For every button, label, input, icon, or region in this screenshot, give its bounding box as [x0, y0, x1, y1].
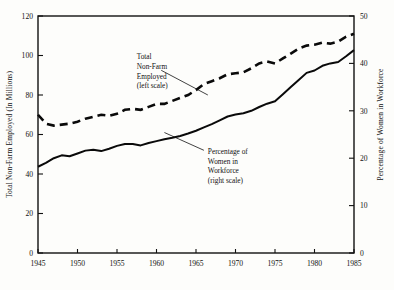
y-axis-right-ticks: 01020304050: [349, 12, 368, 258]
chart-figure: 194519501955196019651970197519801985 020…: [0, 0, 394, 290]
y2-tick-label: 40: [360, 59, 368, 68]
x-tick-label: 1950: [70, 259, 85, 268]
annotation-line: Workforce: [208, 166, 239, 175]
y-tick-label: 0: [29, 249, 33, 258]
annotation-leader-line: [161, 70, 208, 95]
y-tick-label: 80: [25, 91, 33, 100]
chart-annotations: TotalNon-FarmEmployed(left scale)Percent…: [137, 52, 249, 185]
y-axis-left-ticks: 020406080100120: [22, 12, 43, 258]
x-tick-label: 1975: [267, 259, 282, 268]
dual-axis-line-chart: 194519501955196019651970197519801985 020…: [0, 0, 394, 290]
y-axis-left-title: Total Non-Farm Employed (In Millions): [5, 71, 14, 199]
series-percentage-women-workforce: [38, 50, 354, 167]
y-axis-right-title: Percentage of Women in Workforce: [376, 68, 385, 181]
annotation-line: (left scale): [137, 81, 169, 90]
x-tick-label: 1985: [346, 259, 361, 268]
y-tick-label: 100: [22, 51, 34, 60]
annotation-line: Total: [137, 52, 152, 61]
x-tick-label: 1970: [228, 259, 243, 268]
x-tick-label: 1960: [149, 259, 164, 268]
x-tick-label: 1955: [109, 259, 124, 268]
annotation-line: Non-Farm: [137, 62, 168, 71]
x-tick-label: 1980: [307, 259, 322, 268]
y2-tick-label: 30: [360, 107, 368, 116]
y-tick-label: 20: [25, 209, 33, 218]
y2-tick-label: 0: [360, 249, 364, 258]
series-total-nonfarm-employed: [38, 34, 354, 126]
annotation-line: (right scale): [208, 176, 244, 185]
annotation-line: Percentage of: [208, 147, 248, 156]
x-tick-label: 1945: [30, 259, 45, 268]
y2-tick-label: 50: [360, 12, 368, 21]
y2-tick-label: 10: [360, 201, 368, 210]
y-tick-label: 120: [22, 12, 34, 21]
plot-frame: [38, 16, 354, 253]
y-tick-label: 40: [25, 170, 33, 179]
x-tick-label: 1965: [188, 259, 203, 268]
y2-tick-label: 20: [360, 154, 368, 163]
annotation-line: Women in: [208, 157, 238, 166]
x-axis-ticks: 194519501955196019651970197519801985: [30, 249, 361, 268]
y-tick-label: 60: [25, 130, 33, 139]
annotation-line: Employed: [137, 72, 167, 81]
